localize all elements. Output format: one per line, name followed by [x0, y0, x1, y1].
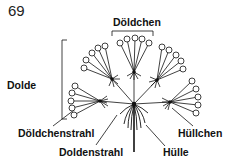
dolde-bracket [62, 40, 67, 119]
leader-hulle [146, 125, 165, 146]
umbellet-left-upper [81, 43, 120, 87]
umbellet-right-lower [162, 78, 201, 116]
leader-doldchenstrahl [53, 110, 74, 126]
umbel-diagram [0, 0, 234, 166]
umbellet-right-upper [149, 44, 186, 88]
doldchen-bracket [112, 31, 153, 36]
leader-doldenstrahl [96, 115, 117, 145]
umbellet-left-lower [68, 83, 108, 118]
